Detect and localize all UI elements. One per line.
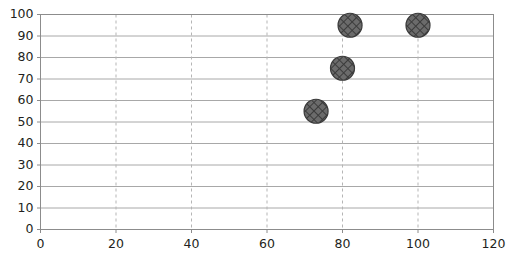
x-tick-label: 20 xyxy=(91,238,141,251)
x-tick-label: 60 xyxy=(242,238,292,251)
y-tick-label: 0 xyxy=(26,223,34,236)
y-tick-label: 40 xyxy=(18,137,34,150)
y-tick-label: 10 xyxy=(18,202,34,215)
x-tick-label: 0 xyxy=(16,238,66,251)
scatter-chart: 0102030405060708090100 020406080100120 xyxy=(0,0,515,260)
data-point xyxy=(338,13,362,37)
horizontal-gridlines xyxy=(41,36,494,208)
y-tick-label: 30 xyxy=(18,159,34,172)
data-point xyxy=(406,13,430,37)
y-tick-label: 100 xyxy=(10,8,34,21)
y-tick-label: 50 xyxy=(18,116,34,129)
plot-canvas xyxy=(0,0,515,260)
data-point xyxy=(304,99,328,123)
x-tick-label: 80 xyxy=(318,238,368,251)
y-tick-label: 20 xyxy=(18,180,34,193)
x-tick-label: 120 xyxy=(469,238,515,251)
y-tick-label: 60 xyxy=(18,94,34,107)
x-tick-label: 40 xyxy=(167,238,217,251)
axis-tick-marks xyxy=(37,15,494,234)
y-tick-label: 70 xyxy=(18,73,34,86)
x-tick-label: 100 xyxy=(393,238,443,251)
y-tick-label: 80 xyxy=(18,51,34,64)
y-tick-label: 90 xyxy=(18,30,34,43)
data-point-markers xyxy=(304,13,430,123)
data-point xyxy=(331,56,355,80)
